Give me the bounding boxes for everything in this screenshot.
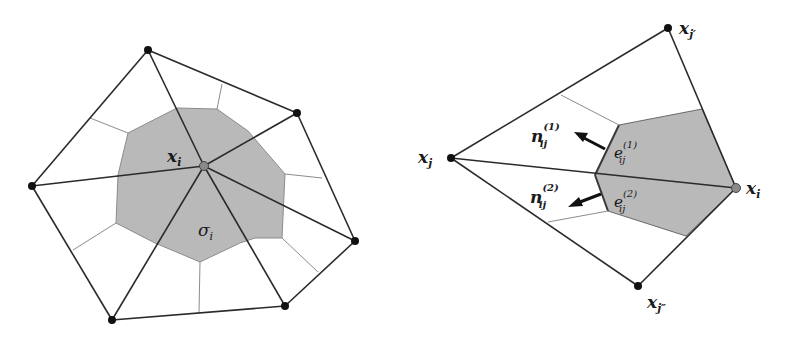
node-neighbor: [144, 46, 152, 54]
node-neighbor: [28, 182, 36, 190]
label-x-j-double-prime: xj″: [646, 292, 666, 315]
node-x-j-double-prime: [634, 282, 642, 290]
node-neighbor: [281, 302, 289, 310]
label-x-j: xj: [417, 147, 432, 170]
node-x-i: [200, 162, 209, 171]
label-n-ij-2: n(2)ij: [530, 182, 559, 210]
label-x-j-prime: xj′: [678, 18, 696, 41]
node-x-j-prime: [664, 24, 672, 32]
node-x-j: [447, 154, 455, 162]
label-x-i: xi: [745, 178, 760, 201]
right-panel: xj xj′ xj″ xi n(1)ij n(2)ij e(1)ij e(2)i…: [417, 18, 760, 315]
diagram-canvas: xi σi xj xj′ xj″: [0, 0, 791, 338]
node-neighbor: [293, 109, 301, 117]
normal-arrow-n1: [574, 132, 605, 149]
label-n-ij-1: n(1)ij: [531, 121, 560, 149]
node-neighbor: [108, 316, 116, 324]
control-volume-part: [595, 109, 736, 236]
left-panel: xi σi: [28, 46, 359, 324]
node-neighbor: [351, 237, 359, 245]
normal-arrow-n2: [568, 194, 601, 207]
node-x-i: [732, 184, 741, 193]
triangle-edges: [32, 50, 355, 320]
